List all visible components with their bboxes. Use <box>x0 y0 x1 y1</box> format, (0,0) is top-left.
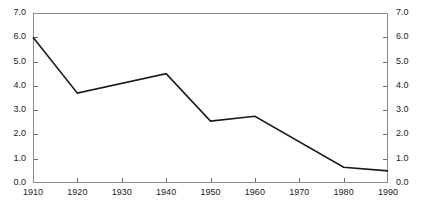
y-axis-tick-label-left: 0.0 <box>2 178 26 187</box>
y-axis-tick-mark-left <box>34 37 38 38</box>
data-series-line <box>33 37 388 171</box>
x-axis-tick-label: 1960 <box>235 188 275 197</box>
x-axis-tick-label: 1920 <box>57 188 97 197</box>
y-axis-tick-label-right: 2.0 <box>396 129 420 138</box>
y-axis-tick-label-right: 3.0 <box>396 105 420 114</box>
y-axis-tick-mark-left <box>34 110 38 111</box>
x-axis-tick-label: 1930 <box>102 188 142 197</box>
y-axis-tick-mark-right <box>383 62 387 63</box>
y-axis-tick-mark-left <box>34 159 38 160</box>
x-axis-tick-mark <box>166 178 167 182</box>
y-axis-tick-label-right: 5.0 <box>396 57 420 66</box>
y-axis-tick-label-right: 4.0 <box>396 81 420 90</box>
y-axis-tick-mark-left <box>34 62 38 63</box>
y-axis-tick-mark-right <box>383 134 387 135</box>
y-axis-tick-label-left: 4.0 <box>2 81 26 90</box>
x-axis-tick-mark <box>299 178 300 182</box>
x-axis-tick-mark <box>344 178 345 182</box>
x-axis-tick-mark <box>122 178 123 182</box>
y-axis-tick-label-right: 6.0 <box>396 32 420 41</box>
y-axis-tick-mark-right <box>383 159 387 160</box>
y-axis-tick-mark-right <box>383 86 387 87</box>
x-axis-tick-label: 1940 <box>146 188 186 197</box>
x-axis-tick-mark <box>211 178 212 182</box>
x-axis-tick-label: 1990 <box>368 188 408 197</box>
x-axis-tick-mark <box>77 178 78 182</box>
y-axis-tick-label-left: 1.0 <box>2 154 26 163</box>
y-axis-tick-mark-left <box>34 86 38 87</box>
y-axis-tick-label-left: 3.0 <box>2 105 26 114</box>
y-axis-tick-label-right: 7.0 <box>396 8 420 17</box>
x-axis-tick-label: 1950 <box>191 188 231 197</box>
line-chart: 0.01.02.03.04.05.06.07.0 0.01.02.03.04.0… <box>0 0 424 203</box>
y-axis-tick-label-left: 6.0 <box>2 32 26 41</box>
plot-area <box>33 13 388 183</box>
y-axis-tick-label-right: 0.0 <box>396 178 420 187</box>
x-axis-tick-mark <box>255 178 256 182</box>
y-axis-tick-label-right: 1.0 <box>396 154 420 163</box>
y-axis-tick-label-left: 2.0 <box>2 129 26 138</box>
x-axis-tick-label: 1910 <box>13 188 53 197</box>
y-axis-tick-mark-right <box>383 37 387 38</box>
y-axis-tick-label-left: 5.0 <box>2 57 26 66</box>
y-axis-tick-mark-right <box>383 110 387 111</box>
y-axis-tick-label-left: 7.0 <box>2 8 26 17</box>
x-axis-tick-label: 1980 <box>324 188 364 197</box>
y-axis-tick-mark-left <box>34 134 38 135</box>
x-axis-tick-label: 1970 <box>279 188 319 197</box>
